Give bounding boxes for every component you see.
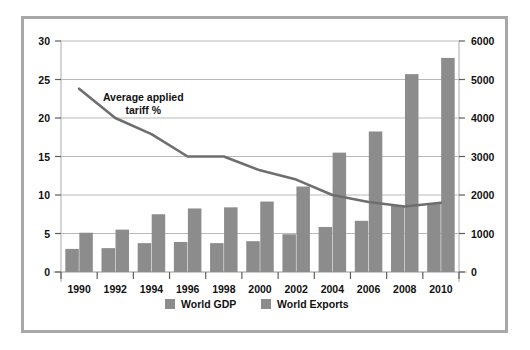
x-axis-tick-label-2010: 2010: [429, 283, 453, 295]
chart-plot-area: 051015202530 0100020003000400050006000 1…: [0, 0, 530, 350]
y2-axis-tick-label: 5000: [471, 74, 495, 86]
bar-world-exports-2010: [441, 58, 455, 272]
legend-label-world-gdp: World GDP: [181, 298, 236, 310]
y-axis-tick-labels: 051015202530: [38, 35, 50, 278]
y-axis-tick-label: 0: [44, 266, 50, 278]
x-axis-tick-label-2000: 2000: [248, 283, 272, 295]
y-axis-tick-label: 30: [38, 35, 50, 47]
bar-world-gdp-2008: [391, 206, 405, 272]
x-axis-tick-marks: [61, 272, 459, 279]
x-axis-tick-labels: 1990199219941996199820002002200420062008…: [67, 283, 452, 295]
y2-axis-tick-label: 4000: [471, 112, 495, 124]
bar-world-exports-1992: [116, 230, 129, 272]
bars: [65, 58, 454, 272]
x-axis-tick-label-2004: 2004: [321, 283, 345, 295]
bar-world-gdp-2002: [282, 234, 296, 272]
bar-world-gdp-2000: [246, 241, 260, 272]
y2-axis-tick-label: 0: [471, 266, 477, 278]
y-axis-tick-label: 25: [38, 74, 50, 86]
x-axis-tick-label-2008: 2008: [393, 283, 417, 295]
bar-world-gdp-2004: [319, 227, 333, 272]
x-axis-tick-label-1990: 1990: [67, 283, 91, 295]
bar-world-gdp-2010: [427, 204, 441, 272]
bar-world-exports-2002: [296, 187, 310, 272]
bar-world-exports-2004: [333, 153, 347, 272]
annotation-line-1: Average applied: [103, 91, 184, 103]
x-axis-tick-label-1994: 1994: [140, 283, 164, 295]
bar-world-gdp-1992: [102, 248, 116, 272]
y-axis-tick-marks: [55, 41, 61, 272]
x-axis-tick-label-1998: 1998: [212, 283, 236, 295]
y-axis-tick-label: 5: [44, 228, 50, 240]
x-axis-tick-label-2002: 2002: [285, 283, 309, 295]
bar-world-gdp-1996: [174, 242, 188, 272]
bar-world-exports-1998: [224, 207, 238, 272]
legend-label-world-exports: World Exports: [277, 298, 349, 310]
chart-legend: World GDPWorld Exports: [165, 298, 349, 310]
bar-world-exports-2000: [260, 202, 274, 272]
bar-world-exports-1990: [79, 233, 93, 272]
x-axis-tick-label-1996: 1996: [176, 283, 200, 295]
y2-axis-tick-label: 3000: [471, 151, 495, 163]
chart-figure: 051015202530 0100020003000400050006000 1…: [0, 0, 530, 350]
y2-axis-tick-label: 2000: [471, 189, 495, 201]
gridlines: [53, 41, 467, 282]
bar-world-exports-1996: [188, 208, 202, 272]
annotation-line-2: tariff %: [125, 104, 161, 116]
y-axis-tick-label: 10: [38, 189, 50, 201]
y2-axis-tick-labels: 0100020003000400050006000: [471, 35, 495, 278]
bar-world-gdp-1994: [138, 243, 152, 272]
y2-axis-tick-label: 6000: [471, 35, 495, 47]
bar-world-exports-2008: [405, 74, 419, 272]
bar-world-exports-1994: [152, 214, 166, 272]
bar-world-gdp-1998: [210, 243, 224, 272]
legend-swatch-world-gdp: [165, 299, 175, 309]
legend-swatch-world-exports: [261, 299, 271, 309]
y-axis-tick-label: 15: [38, 151, 50, 163]
y-axis-tick-label: 20: [38, 112, 50, 124]
chart-annotation: Average appliedtariff %: [103, 91, 184, 116]
y2-axis-tick-marks: [459, 41, 465, 272]
y2-axis-tick-label: 1000: [471, 228, 495, 240]
x-axis-tick-label-2006: 2006: [357, 283, 381, 295]
x-axis-tick-label-1992: 1992: [104, 283, 128, 295]
bar-world-gdp-1990: [65, 249, 79, 272]
bar-world-gdp-2006: [355, 221, 369, 272]
